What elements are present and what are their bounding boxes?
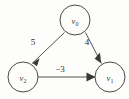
edge-v0-v2-weight: 5 bbox=[31, 37, 36, 47]
edge-v0-v2: 5 bbox=[31, 33, 65, 67]
edge-v0-v2-line bbox=[32, 33, 65, 64]
edge-v2-v1-arrowhead bbox=[87, 72, 96, 81]
edge-v2-v1-weight: −3 bbox=[55, 64, 65, 74]
graph-canvas: 5 4 −3 v0 v2 v1 bbox=[0, 0, 129, 99]
graph-diagram: 5 4 −3 v0 v2 v1 bbox=[0, 0, 129, 99]
node-v1[interactable]: v1 bbox=[95, 62, 125, 92]
node-v0[interactable]: v0 bbox=[60, 5, 90, 35]
node-v0-label-subscript: 0 bbox=[75, 21, 78, 27]
edge-v2-v1: −3 bbox=[38, 64, 96, 82]
edge-v0-v1: 4 bbox=[85, 33, 102, 64]
node-v2-label-subscript: 2 bbox=[23, 78, 26, 84]
node-v2[interactable]: v2 bbox=[8, 62, 38, 92]
node-v1-label-subscript: 1 bbox=[110, 78, 113, 84]
edge-v0-v1-weight: 4 bbox=[85, 37, 90, 47]
edge-v0-v1-arrowhead bbox=[95, 52, 102, 63]
